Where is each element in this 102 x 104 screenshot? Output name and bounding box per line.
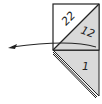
label-1: 1	[82, 60, 89, 73]
arrowhead-icon	[8, 44, 17, 49]
folding-diagram: 22 12 1	[0, 0, 102, 104]
lower-flap	[53, 50, 99, 98]
